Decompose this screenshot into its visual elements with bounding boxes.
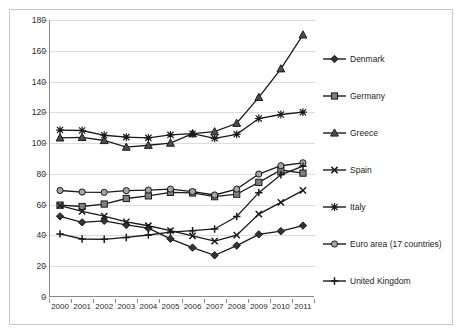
x-axis-tick-label: 2002 [95,302,113,311]
y-axis-tick [43,266,47,267]
x-axis-tick [115,299,116,303]
chart-legend: DenmarkGermanyGreeceSpainItalyEuro area … [322,52,454,314]
legend-label: Euro area (17 countries) [348,239,442,249]
x-axis-tick-label: 2010 [272,302,290,311]
legend-marker-diamond-icon [322,53,348,65]
x-axis-tick-label: 2009 [250,302,268,311]
x-axis-tick [182,299,183,303]
y-axis-tick [43,297,47,298]
legend-marker-square-icon [322,90,348,102]
legend-marker-triangle-icon [322,127,348,139]
legend-item-germany[interactable]: Germany [322,89,385,103]
y-axis-tick [43,51,47,52]
x-axis-tick [292,299,293,303]
x-axis-tick [226,299,227,303]
x-axis-tick-label: 2005 [162,302,180,311]
x-axis-labels: 2000200120022003200420052006200720082009… [49,299,314,315]
series-denmark [56,213,306,259]
legend-label: Spain [348,165,372,175]
series-spain [57,187,306,244]
legend-item-spain[interactable]: Spain [322,163,372,177]
legend-marker-circle-icon [322,238,348,250]
x-axis-tick [248,299,249,303]
y-axis-tick [43,235,47,236]
y-axis-tick [43,20,47,21]
x-axis-tick-label: 2004 [139,302,157,311]
x-axis-tick [314,299,315,303]
y-axis-tick [43,82,47,83]
y-axis-tick [43,143,47,144]
legend-label: Greece [348,128,378,138]
x-axis-tick-label: 2006 [184,302,202,311]
chart-screenshot: 020406080100120140160180 200020012002200… [0,0,463,334]
legend-label: Germany [348,91,385,101]
y-axis-ticks [0,20,49,297]
series-greece [56,31,307,150]
x-axis-tick [93,299,94,303]
x-axis-tick-label: 2007 [206,302,224,311]
x-axis-tick [270,299,271,303]
series-layer [49,20,314,297]
x-axis-tick [159,299,160,303]
x-axis-tick [204,299,205,303]
series-italy [56,108,307,142]
x-axis-tick-label: 2008 [228,302,246,311]
x-axis-tick-label: 2001 [73,302,91,311]
legend-item-denmark[interactable]: Denmark [322,52,384,66]
legend-item-greece[interactable]: Greece [322,126,378,140]
series-germany [57,167,306,210]
legend-marker-plus-icon [322,275,348,287]
y-axis-tick [43,112,47,113]
legend-marker-x-icon [322,164,348,176]
legend-label: Denmark [348,54,384,64]
legend-marker-asterisk-icon [322,201,348,213]
x-axis-tick-label: 2003 [117,302,135,311]
x-axis-tick [137,299,138,303]
legend-item-euro-area-17-countries[interactable]: Euro area (17 countries) [322,237,442,251]
y-axis-tick [43,174,47,175]
series-united-kingdom [56,162,306,242]
y-axis-tick [43,205,47,206]
legend-item-italy[interactable]: Italy [322,200,366,214]
x-axis-tick [71,299,72,303]
x-axis-tick [49,299,50,303]
legend-label: United Kingdom [348,276,410,286]
x-axis-tick-label: 2000 [51,302,69,311]
x-axis-tick-label: 2011 [294,302,311,311]
legend-label: Italy [348,202,366,212]
legend-item-united-kingdom[interactable]: United Kingdom [322,274,410,288]
